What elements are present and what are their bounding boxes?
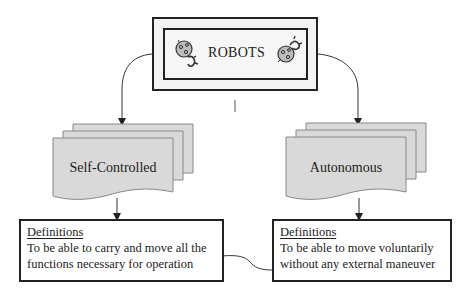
branch-label-autonomous: Autonomous [286,160,406,176]
definition-text-line: To be able to move voluntarily [280,240,444,256]
robot-icon [174,38,200,68]
root-node-title: ROBOTS [208,45,265,61]
definition-heading: Definitions [280,224,444,240]
definition-text-line: without any external maneuver [280,256,444,272]
definition-text-line: To be able to carry and move all the [27,240,216,256]
connector-root-to-self-controlled [122,54,152,122]
definition-text-line: functions necessary for operation [27,256,216,272]
definition-box-self-controlled: Definitions To be able to carry and move… [19,219,224,282]
definition-heading: Definitions [27,224,216,240]
connector-definition-link [222,256,272,270]
connector-root-to-autonomous [318,54,358,122]
branch-label-self-controlled: Self-Controlled [53,160,173,176]
robot-icon [276,35,302,65]
definition-box-autonomous: Definitions To be able to move voluntari… [272,219,452,282]
